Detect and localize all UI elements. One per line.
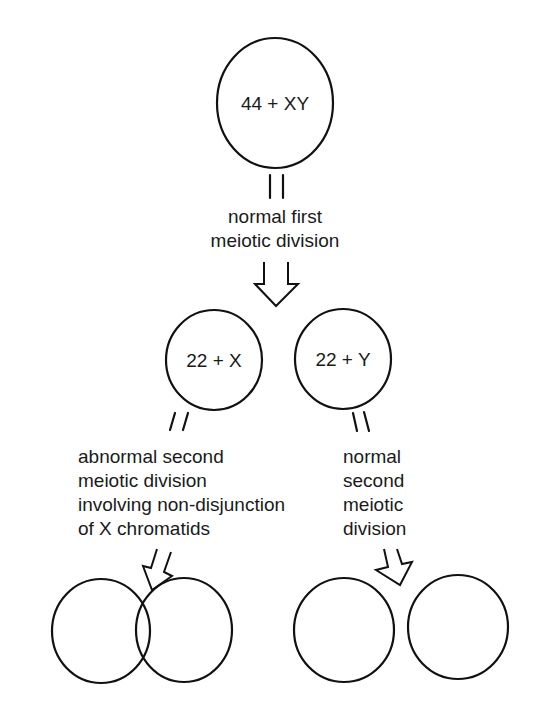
secondary-x-connector-ticks — [170, 413, 188, 430]
caption-line: meiotic division — [78, 469, 285, 493]
secondary-y-connector-ticks — [353, 412, 369, 431]
secondary-cell-y: 22 + Y — [295, 309, 391, 409]
caption-line: normal first — [0, 205, 537, 229]
gamete-cell-4 — [408, 575, 508, 679]
caption-first-division: normal first meiotic division — [0, 205, 537, 253]
caption-line: abnormal second — [78, 445, 285, 469]
parent-connector-ticks — [270, 175, 283, 198]
caption-normal-second-division: normal second meiotic division — [343, 445, 406, 541]
caption-line: of X chromatids — [78, 517, 285, 541]
caption-line: normal — [343, 445, 406, 469]
meiosis-diagram: 44 + XY 22 + X 22 + Y — [0, 0, 537, 706]
caption-line: meiotic — [343, 493, 406, 517]
parent-cell-label: 44 + XY — [241, 93, 309, 114]
caption-abnormal-second-division: abnormal second meiotic division involvi… — [78, 445, 285, 541]
caption-line: involving non-disjunction — [78, 493, 285, 517]
secondary-cell-x: 22 + X — [166, 310, 262, 410]
caption-line: second — [343, 469, 406, 493]
caption-line: meiotic division — [0, 229, 537, 253]
caption-line: division — [343, 517, 406, 541]
secondary-cell-y-label: 22 + Y — [315, 349, 370, 370]
arrow-first-division-icon — [255, 262, 298, 306]
secondary-cell-x-label: 22 + X — [186, 350, 242, 371]
gamete-cell-3 — [294, 578, 394, 682]
arrow-abnormal-second-icon — [143, 549, 172, 590]
parent-cell: 44 + XY — [217, 38, 333, 168]
arrow-normal-second-icon — [376, 549, 412, 585]
